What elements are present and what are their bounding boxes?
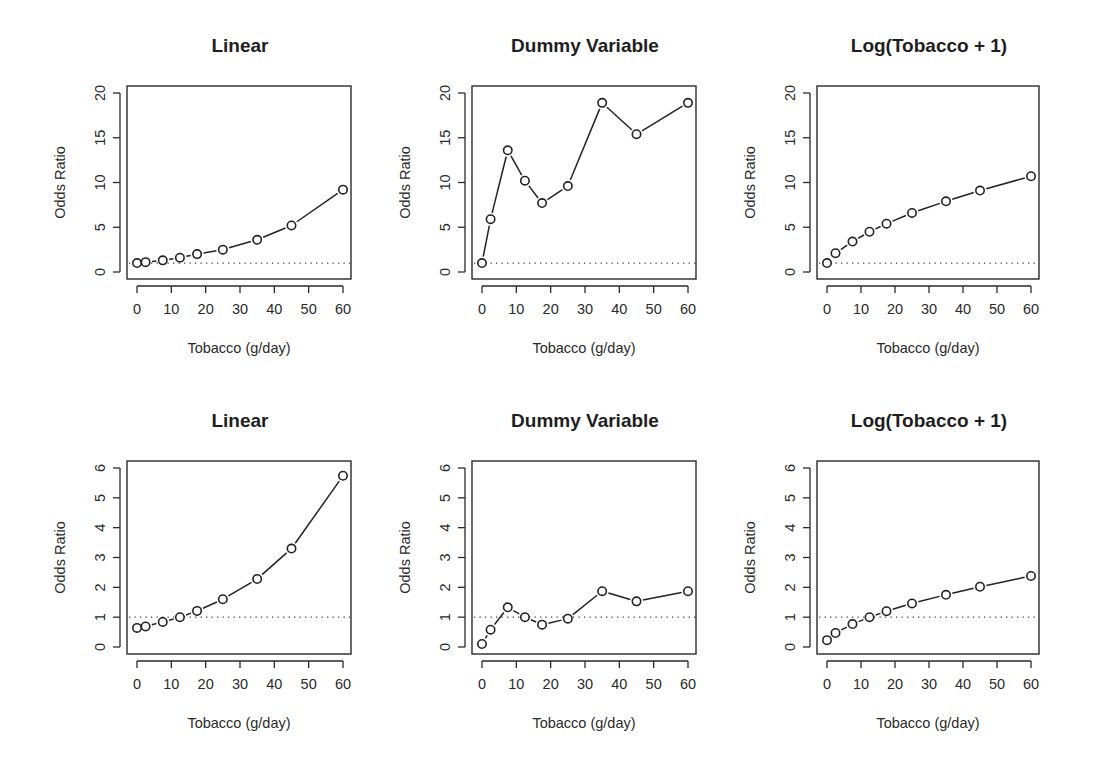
data-point (831, 629, 839, 637)
data-series (823, 172, 1035, 267)
series-segment (529, 186, 538, 198)
x-tick-label: 30 (921, 676, 937, 692)
x-axis-label: Tobacco (g/day) (187, 340, 290, 356)
x-tick-label: 60 (680, 676, 696, 692)
y-tick-label: 0 (437, 643, 453, 651)
series-segment (483, 226, 489, 257)
x-tick-label: 30 (577, 301, 593, 317)
data-point (253, 575, 261, 583)
x-tick-label: 10 (508, 301, 524, 317)
series-segment (570, 109, 599, 180)
x-tick-label: 30 (921, 301, 937, 317)
data-point (823, 259, 831, 267)
x-axis-label: Tobacco (g/day) (532, 340, 635, 356)
x-tick-label: 10 (853, 301, 869, 317)
x-tick-label: 50 (646, 676, 662, 692)
y-tick-label: 4 (92, 524, 108, 532)
y-axis: 05101520 (782, 85, 810, 276)
data-point (141, 258, 149, 266)
y-tick-label: 2 (92, 583, 108, 591)
data-point (504, 146, 512, 154)
series-segment (918, 596, 939, 601)
y-tick-label: 1 (92, 613, 108, 621)
data-point (976, 583, 984, 591)
x-tick-label: 50 (989, 676, 1005, 692)
y-tick-label: 5 (92, 223, 108, 231)
data-point (141, 622, 149, 630)
data-point (486, 215, 494, 223)
series-segment (203, 251, 216, 253)
data-point (193, 607, 201, 615)
series-segment (643, 592, 682, 600)
x-tick-label: 20 (198, 676, 214, 692)
series-segment (986, 577, 1024, 585)
data-point (538, 620, 546, 628)
series-segment (608, 593, 630, 599)
x-tick-label: 60 (335, 301, 351, 317)
series-segment (186, 255, 190, 256)
series-segment (876, 613, 881, 615)
data-point (942, 591, 950, 599)
series-segment (841, 245, 847, 249)
y-axis-label: Odds Ratio (52, 521, 68, 594)
y-axis-label: Odds Ratio (742, 521, 758, 594)
data-point (684, 587, 692, 595)
data-series (478, 99, 692, 268)
y-tick-label: 6 (437, 464, 453, 472)
y-tick-label: 2 (782, 583, 798, 591)
data-point (976, 186, 984, 194)
data-point (908, 599, 916, 607)
series-segment (952, 588, 973, 593)
y-axis: 0123456 (782, 464, 810, 651)
x-axis-label: Tobacco (g/day) (876, 340, 979, 356)
x-tick-label: 0 (478, 676, 486, 692)
data-point (159, 618, 167, 626)
data-point (942, 197, 950, 205)
x-axis-label: Tobacco (g/day) (187, 715, 290, 731)
series-segment (492, 157, 506, 213)
x-tick-label: 0 (478, 301, 486, 317)
x-axis: 0102030405060 (133, 286, 351, 317)
series-segment (607, 107, 632, 130)
series-segment (229, 242, 251, 248)
x-tick-label: 50 (301, 676, 317, 692)
x-tick-label: 20 (887, 301, 903, 317)
x-axis: 0102030405060 (823, 286, 1039, 317)
panel-bottom-middle: Dummy Variable0102030405060Tobacco (g/da… (397, 410, 696, 731)
panel-title: Log(Tobacco + 1) (851, 410, 1007, 431)
x-axis: 0102030405060 (133, 661, 351, 692)
x-tick-label: 20 (887, 676, 903, 692)
x-tick-label: 40 (611, 676, 627, 692)
x-tick-label: 40 (611, 301, 627, 317)
y-axis: 05101520 (92, 85, 120, 276)
x-tick-label: 30 (577, 676, 593, 692)
data-point (538, 199, 546, 207)
series-segment (297, 193, 338, 221)
x-tick-label: 0 (133, 676, 141, 692)
y-tick-label: 20 (92, 85, 108, 101)
y-tick-label: 10 (437, 174, 453, 190)
x-tick-label: 0 (823, 301, 831, 317)
data-point (831, 249, 839, 257)
data-point (133, 259, 141, 267)
y-tick-label: 3 (437, 553, 453, 561)
data-point (632, 597, 640, 605)
series-segment (548, 620, 561, 623)
y-tick-label: 0 (782, 643, 798, 651)
data-point (564, 614, 572, 622)
x-axis: 0102030405060 (478, 286, 696, 317)
y-axis-label: Odds Ratio (397, 146, 413, 219)
data-point (219, 245, 227, 253)
panel-top-right: Log(Tobacco + 1)0102030405060Tobacco (g/… (742, 35, 1039, 356)
series-segment (642, 106, 682, 131)
data-point (598, 587, 606, 595)
data-point (339, 472, 347, 480)
y-tick-label: 0 (92, 268, 108, 276)
data-series (823, 572, 1035, 645)
series-segment (918, 203, 940, 210)
data-series (133, 472, 347, 633)
data-point (823, 636, 831, 644)
data-point (848, 620, 856, 628)
data-point (176, 613, 184, 621)
plot-frame (472, 461, 696, 654)
